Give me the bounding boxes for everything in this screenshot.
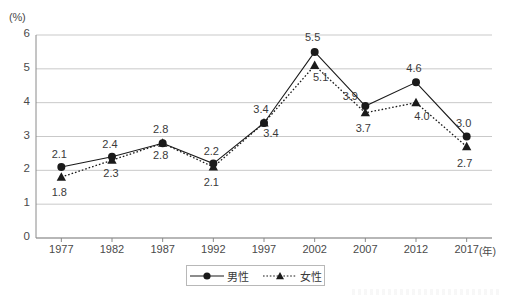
data-point-label: 5.1 (301, 71, 341, 83)
legend-marker-circle-icon (190, 270, 224, 282)
line-chart: (%) (年) 0123456 197719821987199219972002… (0, 0, 510, 299)
x-axis-ticks (61, 238, 466, 242)
data-point-label: 2.2 (191, 145, 231, 157)
x-tick-label: 1977 (35, 243, 87, 255)
data-point-label: 5.5 (293, 31, 333, 43)
data-point-label: 1.8 (39, 186, 79, 198)
x-tick-label: 2017 (441, 243, 493, 255)
y-tick-label: 0 (8, 230, 30, 242)
data-point-label: 3.7 (343, 122, 383, 134)
legend-marker-triangle-icon (263, 270, 297, 282)
x-tick-label: 1992 (187, 243, 239, 255)
legend-label-female: 女性 (300, 268, 322, 284)
y-tick-label: 5 (8, 61, 30, 73)
data-point-label: 2.3 (91, 167, 131, 179)
data-point-label: 2.1 (39, 148, 79, 160)
y-tick-label: 4 (8, 95, 30, 107)
footer-artifact (352, 289, 502, 295)
data-point-label: 3.4 (251, 127, 291, 139)
data-point-label: 4.6 (394, 62, 434, 74)
data-point-label: 2.8 (141, 149, 181, 161)
data-point-label: 2.1 (191, 176, 231, 188)
x-tick-label: 1997 (238, 243, 290, 255)
chart-legend: 男性 女性 (186, 265, 325, 286)
legend-label-male: 男性 (227, 268, 249, 284)
data-point-label: 2.8 (141, 123, 181, 135)
data-point-label: 3.0 (444, 117, 484, 129)
data-point-label: 4.0 (402, 110, 442, 122)
y-tick-label: 2 (8, 162, 30, 174)
y-tick-label: 1 (8, 196, 30, 208)
data-point-label: 3.9 (330, 90, 370, 102)
x-tick-label: 1982 (86, 243, 138, 255)
x-tick-label: 2007 (339, 243, 391, 255)
x-tick-label: 2002 (289, 243, 341, 255)
x-tick-label: 2012 (390, 243, 442, 255)
y-tick-label: 3 (8, 129, 30, 141)
data-point-label: 2.7 (445, 157, 485, 169)
data-point-label: 2.4 (90, 138, 130, 150)
x-tick-label: 1987 (137, 243, 189, 255)
data-point-label: 3.4 (241, 103, 281, 115)
legend-item-male: 男性 (190, 268, 249, 284)
legend-item-female: 女性 (263, 268, 322, 284)
y-tick-label: 6 (8, 27, 30, 39)
